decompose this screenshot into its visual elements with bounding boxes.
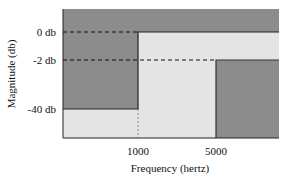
x-tick-1000: 1000 [127, 145, 150, 157]
y-axis-title: Magnitude (db) [5, 39, 18, 108]
filter-spec-diagram: 0 db -2 db -40 db 1000 5000 Frequency (h… [0, 0, 284, 180]
region-stopband-low [63, 32, 138, 109]
y-tick-minus2db: -2 db [33, 54, 56, 66]
y-tick-0db: 0 db [37, 26, 57, 38]
region-above-0db [63, 9, 279, 32]
x-axis-title: Frequency (hertz) [131, 162, 210, 175]
region-stopband-high [216, 60, 279, 138]
y-tick-minus40db: -40 db [28, 103, 57, 115]
x-tick-5000: 5000 [205, 145, 228, 157]
